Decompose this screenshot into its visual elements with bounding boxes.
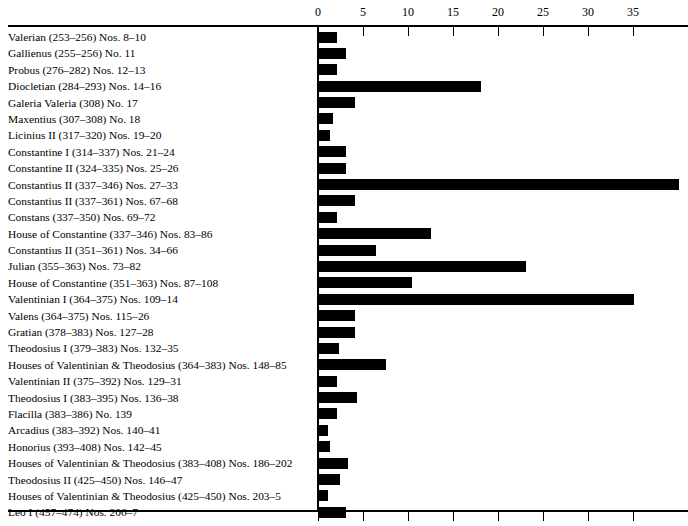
bar-row: Diocletian (284–293) Nos. 14–16 <box>0 78 688 94</box>
bar-category-label: Honorius (393–408) Nos. 142–45 <box>8 440 313 454</box>
bar <box>319 146 346 157</box>
bar-row: Houses of Valentinian & Theodosius (383–… <box>0 455 688 471</box>
bar-category-label: Constantius II (337–346) Nos. 27–33 <box>8 178 313 192</box>
bar-track <box>319 32 337 43</box>
bar-category-label: Constantius II (351–361) Nos. 34–66 <box>8 243 313 257</box>
bar-category-label: Theodosius I (379–383) Nos. 132–35 <box>8 341 313 355</box>
bar-row: Gallienus (255–256) No. 11 <box>0 45 688 61</box>
bar-track <box>319 359 386 370</box>
bar-track <box>319 343 339 354</box>
bar-track <box>319 261 526 272</box>
x-tick-label: 20 <box>492 6 504 18</box>
bar-track <box>319 81 481 92</box>
bar-row: House of Constantine (337–346) Nos. 83–8… <box>0 226 688 242</box>
bar-track <box>319 130 330 141</box>
bar <box>319 310 355 321</box>
bar-category-label: Houses of Valentinian & Theodosius (383–… <box>8 456 313 470</box>
bar-row: Theodosius I (379–383) Nos. 132–35 <box>0 340 688 356</box>
bar <box>319 507 346 518</box>
bar-row: Probus (276–282) Nos. 12–13 <box>0 62 688 78</box>
bar-category-label: Houses of Valentinian & Theodosius (364–… <box>8 358 313 372</box>
bar-row: Leo I (457–474) Nos. 206–7 <box>0 504 688 520</box>
bar <box>319 179 679 190</box>
bar-row: Constantine I (314–337) Nos. 21–24 <box>0 144 688 160</box>
bar-track <box>319 392 357 403</box>
bar <box>319 392 357 403</box>
bar-row: Valentinian II (375–392) Nos. 129–31 <box>0 373 688 389</box>
bar-category-label: Valens (364–375) Nos. 115–26 <box>8 309 313 323</box>
bar-row: Honorius (393–408) Nos. 142–45 <box>0 439 688 455</box>
bar-category-label: Leo I (457–474) Nos. 206–7 <box>8 505 313 519</box>
bar <box>319 343 339 354</box>
x-tick-label: 30 <box>582 6 594 18</box>
bar-track <box>319 376 337 387</box>
bar-category-label: Valentinian II (375–392) Nos. 129–31 <box>8 374 313 388</box>
bar-category-label: Flacilla (383–386) No. 139 <box>8 407 313 421</box>
bar-track <box>319 310 355 321</box>
x-tick-label: 25 <box>537 6 549 18</box>
bar-track <box>319 474 340 485</box>
bar-category-label: Houses of Valentinian & Theodosius (425–… <box>8 489 313 503</box>
bar-category-label: Maxentius (307–308) No. 18 <box>8 112 313 126</box>
bar-track <box>319 179 679 190</box>
bar-row: Flacilla (383–386) No. 139 <box>0 406 688 422</box>
bar-track <box>319 146 346 157</box>
bar-category-label: Probus (276–282) Nos. 12–13 <box>8 63 313 77</box>
bar <box>319 408 337 419</box>
bar-row: Licinius II (317–320) Nos. 19–20 <box>0 127 688 143</box>
bar-category-label: Gallienus (255–256) No. 11 <box>8 46 313 60</box>
bar-row: Maxentius (307–308) No. 18 <box>0 111 688 127</box>
bar-category-label: Theodosius I (383–395) Nos. 136–38 <box>8 391 313 405</box>
bar-category-label: Arcadius (383–392) Nos. 140–41 <box>8 423 313 437</box>
x-tick-label: 35 <box>627 6 639 18</box>
bar-row: Constans (337–350) Nos. 69–72 <box>0 209 688 225</box>
bar-category-label: Constantine II (324–335) Nos. 25–26 <box>8 161 313 175</box>
bar-row: House of Constantine (351–363) Nos. 87–1… <box>0 275 688 291</box>
bar-row: Constantius II (337–361) Nos. 67–68 <box>0 193 688 209</box>
x-tick-label: 10 <box>402 6 414 18</box>
bar-category-label: Galeria Valeria (308) No. 17 <box>8 96 313 110</box>
bar-track <box>319 163 346 174</box>
bar-category-label: Licinius II (317–320) Nos. 19–20 <box>8 128 313 142</box>
bar-row: Arcadius (383–392) Nos. 140–41 <box>0 422 688 438</box>
bar-category-label: House of Constantine (337–346) Nos. 83–8… <box>8 227 313 241</box>
bar-track <box>319 408 337 419</box>
bar-row: Valerian (253–256) Nos. 8–10 <box>0 29 688 45</box>
bar-row: Constantine II (324–335) Nos. 25–26 <box>0 160 688 176</box>
bar-category-label: Constantius II (337–361) Nos. 67–68 <box>8 194 313 208</box>
bar-track <box>319 113 333 124</box>
bar-category-label: Theodosius II (425–450) Nos. 146–47 <box>8 473 313 487</box>
bar-track <box>319 277 412 288</box>
bar <box>319 130 330 141</box>
bar-row: Constantius II (351–361) Nos. 34–66 <box>0 242 688 258</box>
bar <box>319 474 340 485</box>
bar-category-label: Valerian (253–256) Nos. 8–10 <box>8 30 313 44</box>
bar-row: Houses of Valentinian & Theodosius (364–… <box>0 357 688 373</box>
chart-page: 05101520253035 Valerian (253–256) Nos. 8… <box>0 0 688 526</box>
bar <box>319 228 431 239</box>
bar-track <box>319 212 337 223</box>
bar-track <box>319 245 376 256</box>
bar <box>319 425 328 436</box>
bar-category-label: Gratian (378–383) Nos. 127–28 <box>8 325 313 339</box>
bar-track <box>319 490 328 501</box>
bar <box>319 261 526 272</box>
bar <box>319 327 355 338</box>
bar-track <box>319 507 346 518</box>
bar-track <box>319 228 431 239</box>
bar-category-label: House of Constantine (351–363) Nos. 87–1… <box>8 276 313 290</box>
bar-category-label: Constantine I (314–337) Nos. 21–24 <box>8 145 313 159</box>
bar <box>319 458 348 469</box>
bar <box>319 359 386 370</box>
bar-category-label: Julian (355–363) Nos. 73–82 <box>8 259 313 273</box>
bar <box>319 64 337 75</box>
x-tick-label: 15 <box>447 6 459 18</box>
x-tick-label: 5 <box>360 6 366 18</box>
bar-track <box>319 195 355 206</box>
bar-row: Galeria Valeria (308) No. 17 <box>0 95 688 111</box>
bar <box>319 48 346 59</box>
bar <box>319 376 337 387</box>
bar-category-label: Valentinian I (364–375) Nos. 109–14 <box>8 292 313 306</box>
bar-category-label: Constans (337–350) Nos. 69–72 <box>8 210 313 224</box>
bar <box>319 212 337 223</box>
